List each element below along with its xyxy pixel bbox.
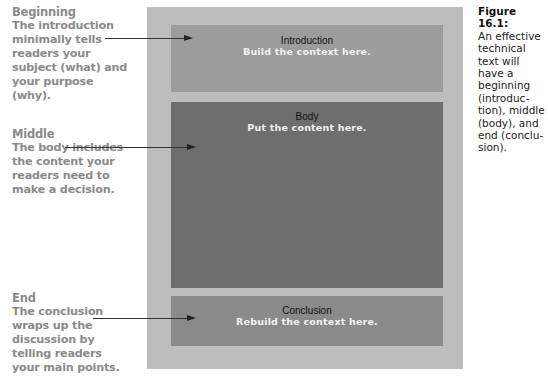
section-subtitle: Put the content here. bbox=[171, 122, 443, 133]
arrowhead-icon bbox=[187, 144, 196, 150]
annotation-text: The introduction minimally tells readers… bbox=[12, 19, 132, 103]
arrow-end-icon bbox=[93, 318, 194, 319]
section-title: Introduction bbox=[171, 35, 443, 46]
annotation-heading: End bbox=[12, 291, 132, 305]
arrow-middle-icon bbox=[65, 147, 194, 148]
caption-text: An effective technical text will have a … bbox=[478, 30, 545, 154]
section-subtitle: Build the context here. bbox=[171, 46, 443, 57]
arrowhead-icon bbox=[187, 315, 196, 321]
annotation-heading: Beginning bbox=[12, 5, 132, 19]
section-conclusion: Conclusion Rebuild the context here. bbox=[171, 296, 443, 346]
figure-caption: Figure 16.1: An effective technical text… bbox=[478, 5, 548, 154]
section-introduction: Introduction Build the context here. bbox=[171, 25, 443, 92]
section-title: Conclusion bbox=[171, 305, 443, 316]
section-body: Body Put the content here. bbox=[171, 102, 443, 288]
annotation-end: End The conclusion wraps up the discussi… bbox=[12, 291, 132, 375]
annotation-middle: Middle The body includes the content you… bbox=[12, 127, 132, 197]
annotation-text: The conclusion wraps up the discussion b… bbox=[12, 305, 132, 375]
arrow-beginning-icon bbox=[105, 38, 191, 39]
annotation-beginning: Beginning The introduction minimally tel… bbox=[12, 5, 132, 103]
section-title: Body bbox=[171, 111, 443, 122]
annotation-heading: Middle bbox=[12, 127, 132, 141]
figure-label: Figure 16.1: bbox=[478, 5, 548, 30]
annotation-text: The body includes the content your reade… bbox=[12, 141, 132, 197]
arrowhead-icon bbox=[184, 35, 193, 41]
section-subtitle: Rebuild the context here. bbox=[171, 316, 443, 327]
